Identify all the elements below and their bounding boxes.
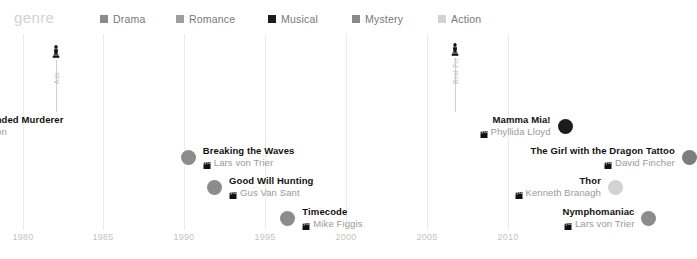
legend-item-action[interactable]: Action xyxy=(438,13,481,25)
film-director-row: Kenneth Branagh xyxy=(515,187,601,199)
gridline xyxy=(103,34,104,230)
legend-swatch-icon xyxy=(100,15,108,23)
gridline xyxy=(265,34,266,230)
legend-item-mystery[interactable]: Mystery xyxy=(352,13,403,25)
statue-award-icon xyxy=(450,42,461,55)
film-title: The Simple-Minded Murderer xyxy=(0,114,64,126)
film-director-row: Lars von Trier xyxy=(564,218,634,230)
clapperboard-icon xyxy=(203,159,211,167)
film-entry[interactable]: Good Will HuntingGus Van Sant xyxy=(207,175,313,199)
clapperboard-icon xyxy=(229,189,237,197)
film-entry[interactable]: TimecodeMike Figgis xyxy=(280,206,362,230)
film-director-row: Mike Figgis xyxy=(302,218,362,230)
legend-item-label: Drama xyxy=(113,13,146,25)
film-director: Lars von Trier xyxy=(214,157,273,169)
film-director: Gus Van Sant xyxy=(240,187,300,199)
statue-award-icon xyxy=(51,44,62,57)
x-axis-tick-label: 2000 xyxy=(335,232,356,242)
film-entry[interactable]: The Simple-Minded MurdererHans Alfredson xyxy=(0,114,64,138)
genre-dot-mystery[interactable] xyxy=(682,150,697,165)
legend-item-drama[interactable]: Drama xyxy=(100,13,146,25)
legend-item-label: Musical xyxy=(281,13,318,25)
clapperboard-icon xyxy=(302,220,310,228)
film-entry[interactable]: Breaking the WavesLars von Trier xyxy=(181,145,295,169)
gridline xyxy=(184,34,185,230)
legend-item-romance[interactable]: Romance xyxy=(176,13,235,25)
clapperboard-icon xyxy=(480,128,488,136)
film-director-row: Gus Van Sant xyxy=(229,187,300,199)
film-title: Thor xyxy=(579,175,601,187)
film-title: Good Will Hunting xyxy=(229,175,313,187)
genre-dot-action[interactable] xyxy=(608,180,623,195)
film-entry[interactable]: The Girl with the Dragon TattooDavid Fin… xyxy=(531,145,697,169)
gridline xyxy=(427,34,428,230)
film-director: Mike Figgis xyxy=(313,218,362,230)
film-director: Kenneth Branagh xyxy=(526,187,601,199)
genre-dot-drama[interactable] xyxy=(280,211,295,226)
legend-item-label: Romance xyxy=(189,13,235,25)
film-entry[interactable]: NymphomaniacLars von Trier xyxy=(563,206,657,230)
film-entry[interactable]: Mamma Mia!Phyllida Lloyd xyxy=(480,114,573,138)
film-director: Phyllida Lloyd xyxy=(491,126,551,138)
x-axis-tick-label: 1990 xyxy=(173,232,194,242)
genre-dot-drama[interactable] xyxy=(641,211,656,226)
legend-swatch-icon xyxy=(176,15,184,23)
film-director-row: David Fincher xyxy=(604,157,675,169)
film-entry[interactable]: ThorKenneth Branagh xyxy=(515,175,623,199)
legend-item-musical[interactable]: Musical xyxy=(268,13,318,25)
clapperboard-icon xyxy=(564,220,572,228)
film-director-row: Hans Alfredson xyxy=(0,126,7,138)
legend-swatch-icon xyxy=(268,15,276,23)
genre-dot-drama[interactable] xyxy=(207,180,222,195)
film-title: Mamma Mia! xyxy=(493,114,551,126)
x-axis-tick-label: 2005 xyxy=(416,232,437,242)
legend-title: genre xyxy=(14,9,54,26)
film-director: Hans Alfredson xyxy=(0,126,7,138)
x-axis-tick-label: 1995 xyxy=(254,232,275,242)
film-director-row: Lars von Trier xyxy=(203,157,273,169)
genre-dot-musical[interactable] xyxy=(558,119,573,134)
x-axis-tick-label: 1980 xyxy=(12,232,33,242)
legend: genre DramaRomanceMusicalMysteryAction xyxy=(0,0,593,34)
x-axis-tick-label: 2010 xyxy=(497,232,518,242)
film-title: The Girl with the Dragon Tattoo xyxy=(531,145,675,157)
legend-item-label: Action xyxy=(451,13,481,25)
genre-dot-drama[interactable] xyxy=(181,150,196,165)
film-director: David Fincher xyxy=(615,157,675,169)
gridline xyxy=(346,34,347,230)
clapperboard-icon xyxy=(515,189,523,197)
annotation-stem xyxy=(56,60,57,112)
x-axis-tick-label: 1985 xyxy=(92,232,113,242)
timeline-plot: 1980198519901995200020052010AuxBest PicT… xyxy=(0,34,593,259)
legend-swatch-icon xyxy=(438,15,446,23)
film-title: Breaking the Waves xyxy=(203,145,295,157)
annotation-label: Aux xyxy=(53,72,60,84)
clapperboard-icon xyxy=(604,159,612,167)
film-director-row: Phyllida Lloyd xyxy=(480,126,551,138)
annotation-label: Best Pic xyxy=(452,58,459,84)
film-title: Timecode xyxy=(302,206,347,218)
film-title: Nymphomaniac xyxy=(563,206,635,218)
film-director: Lars von Trier xyxy=(575,218,634,230)
legend-item-label: Mystery xyxy=(365,13,403,25)
legend-swatch-icon xyxy=(352,15,360,23)
